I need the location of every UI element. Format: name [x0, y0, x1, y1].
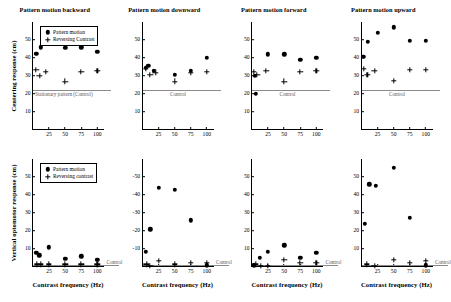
y-axis-tick: 20: [25, 228, 33, 234]
x-axis-tick: 50: [391, 266, 397, 274]
panel-top-1: Pattern motion backward10203040502550751…: [0, 0, 110, 151]
plot-area: 1020304050255075100Control: [142, 22, 214, 130]
pattern-motion-marker: [258, 256, 262, 260]
data-point: [258, 263, 263, 268]
reversing-contrast-marker: [314, 260, 319, 265]
data-point: [153, 70, 158, 75]
pattern-motion-marker: [391, 25, 395, 29]
y-axis-tick: 10: [25, 246, 33, 252]
pattern-motion-marker: [361, 55, 365, 59]
data-point: [375, 31, 379, 35]
data-point: [143, 66, 148, 71]
control-label: Control: [170, 92, 186, 97]
reversing-contrast-marker: [263, 68, 268, 73]
data-point: [144, 249, 148, 253]
data-point: [407, 67, 412, 72]
y-axis-tick: 40: [353, 192, 361, 198]
data-point: [407, 260, 412, 265]
y-axis-tick: 10: [244, 246, 252, 252]
data-point: [281, 79, 286, 84]
data-point: [363, 222, 367, 226]
data-point: [188, 260, 193, 265]
y-axis-tick: 50: [244, 37, 252, 43]
data-point: [372, 263, 377, 268]
y-axis-tick: 50: [25, 37, 33, 43]
data-point: [62, 262, 67, 267]
y-axis-tick: 10: [353, 246, 361, 252]
x-axis-tick: 50: [172, 129, 178, 137]
marker-glyph: [45, 174, 50, 179]
data-point: [373, 184, 377, 188]
reversing-contrast-marker: [95, 262, 100, 267]
pattern-motion-marker: [314, 56, 318, 60]
y-axis-tick: 30: [25, 73, 33, 79]
data-point: [95, 262, 100, 267]
data-point: [361, 55, 365, 59]
data-point: [282, 52, 286, 56]
reversing-contrast-marker: [258, 263, 263, 268]
x-axis-tick: 25: [265, 129, 271, 137]
data-point: [361, 66, 366, 71]
marker-glyph: [45, 37, 50, 42]
data-point: [34, 51, 38, 55]
reversing-contrast-marker: [372, 263, 377, 268]
control-label: Stationary pattern (Control): [35, 92, 93, 97]
data-point: [314, 260, 319, 265]
x-axis-label: Contrast frequency (Hz): [142, 281, 214, 288]
y-axis-tick: 40: [134, 55, 142, 61]
data-point: [63, 46, 67, 50]
pattern-motion-marker: [37, 253, 41, 257]
control-line: [143, 265, 229, 266]
y-axis-tick: 30: [353, 73, 361, 79]
reversing-contrast-marker: [148, 263, 153, 268]
x-axis-tick: 25: [156, 129, 162, 137]
data-point: [172, 187, 176, 191]
reversing-contrast-marker: [95, 68, 100, 73]
y-axis-tick: 50: [353, 37, 361, 43]
data-point: [364, 262, 369, 267]
reversing-contrast-marker: [423, 258, 428, 263]
y-axis-tick: 40: [25, 55, 33, 61]
pattern-motion-marker: [298, 58, 302, 62]
reversing-contrast-marker: [314, 68, 319, 73]
y-axis-tick: 40: [244, 192, 252, 198]
reversing-contrast-marker: [156, 258, 161, 263]
x-axis-tick: 75: [297, 129, 303, 137]
pattern-motion-marker: [282, 243, 286, 247]
legend-label: Reversing contrast: [53, 174, 93, 179]
data-point: [391, 78, 396, 83]
data-point: [156, 186, 160, 190]
plot-area: 1020304050255075100Control: [251, 159, 323, 267]
reversing-contrast-marker: [43, 69, 48, 74]
pattern-motion-marker: [363, 222, 367, 226]
panel-title: Pattern motion upward: [329, 6, 439, 13]
reversing-contrast-marker: [361, 66, 366, 71]
y-axis-tick: -40: [133, 192, 143, 198]
y-axis-tick: -50: [133, 174, 143, 180]
data-point: [365, 72, 370, 77]
reversing-contrast-marker: [79, 69, 84, 74]
plot-area: -10-20-30-40-50255075100Control: [142, 159, 214, 267]
data-point: [156, 258, 161, 263]
y-axis-tick: 30: [244, 210, 252, 216]
data-point: [37, 73, 42, 78]
y-axis-tick: 50: [134, 37, 142, 43]
y-axis-tick: 10: [134, 109, 142, 115]
y-axis-tick: 30: [353, 210, 361, 216]
x-axis-tick: 50: [281, 129, 287, 137]
data-point: [63, 257, 67, 261]
x-axis-tick: 50: [172, 266, 178, 274]
data-point: [423, 67, 428, 72]
x-axis-tick: 25: [46, 129, 52, 137]
x-axis-tick: 100: [203, 129, 211, 137]
data-point: [95, 68, 100, 73]
data-point: [204, 260, 209, 265]
data-point: [424, 263, 428, 267]
legend-label: Pattern motion: [53, 167, 85, 172]
pattern-motion-marker: [424, 39, 428, 43]
data-point: [298, 58, 302, 62]
data-point: [281, 257, 286, 262]
x-axis-tick: 50: [62, 266, 68, 274]
reversing-contrast-marker: [188, 70, 193, 75]
